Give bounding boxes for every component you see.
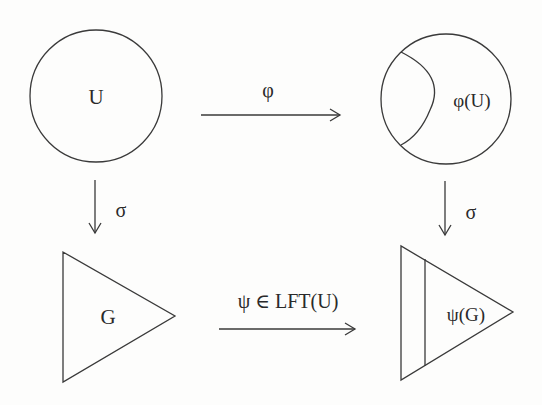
edge-phi-label: φ	[262, 79, 274, 102]
node-psi-g: ψ(G)	[401, 246, 513, 380]
diagram-canvas: U φ φ(U) σ σ G	[0, 0, 542, 405]
edge-sigma-right: σ	[439, 181, 477, 235]
edge-phi: φ	[201, 79, 340, 121]
inner-arc	[401, 52, 435, 145]
commutative-diagram: U φ φ(U) σ σ G	[0, 0, 542, 405]
node-u-label: U	[88, 85, 103, 109]
edge-sigma-left: σ	[89, 180, 127, 233]
node-phi-u: φ(U)	[381, 34, 511, 164]
edge-sigma-left-label: σ	[116, 199, 127, 221]
node-psi-g-label: ψ(G)	[447, 304, 485, 326]
node-g: G	[63, 252, 175, 382]
circle-phi-u	[381, 34, 511, 164]
node-g-label: G	[100, 305, 115, 329]
triangle-g	[63, 252, 175, 382]
edge-psi-label: ψ ∈ LFT(U)	[238, 290, 339, 313]
node-phi-u-label: φ(U)	[453, 90, 490, 112]
edge-psi: ψ ∈ LFT(U)	[219, 290, 355, 335]
edge-sigma-right-label: σ	[466, 201, 477, 223]
node-u: U	[30, 30, 162, 162]
